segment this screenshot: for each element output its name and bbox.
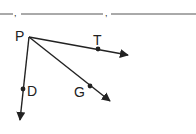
label-p: P — [15, 28, 24, 44]
separator-comma-2: , — [105, 8, 108, 18]
point-g — [88, 84, 93, 89]
label-t: T — [93, 32, 102, 48]
label-g: G — [74, 84, 85, 100]
ray-pt — [29, 37, 128, 55]
separator-comma-1: , — [14, 8, 17, 18]
ray-pd — [20, 37, 29, 120]
answer-blanks: , , — [0, 8, 196, 18]
ray-diagram: , , P T G D — [0, 0, 196, 134]
point-d — [21, 87, 26, 92]
label-d: D — [27, 83, 37, 99]
